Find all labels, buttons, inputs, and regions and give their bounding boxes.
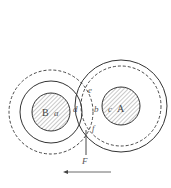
label-c-point: c <box>108 104 112 114</box>
label-force: F <box>81 156 88 166</box>
diagram-canvas: B a c A d e b f F <box>0 0 171 188</box>
label-a: A <box>117 103 125 114</box>
label-e: e <box>88 85 92 95</box>
arrow-head-icon <box>63 170 68 174</box>
label-f: f <box>92 123 96 133</box>
cylinder-b <box>9 70 93 154</box>
label-b-point: b <box>94 104 99 114</box>
label-a-point: a <box>54 108 59 118</box>
label-d: d <box>73 104 78 114</box>
label-b: B <box>42 107 49 118</box>
cylinder-b-core <box>32 93 70 131</box>
diagram-svg: B a c A d e b f F <box>0 0 171 188</box>
direction-arrow <box>63 170 111 174</box>
